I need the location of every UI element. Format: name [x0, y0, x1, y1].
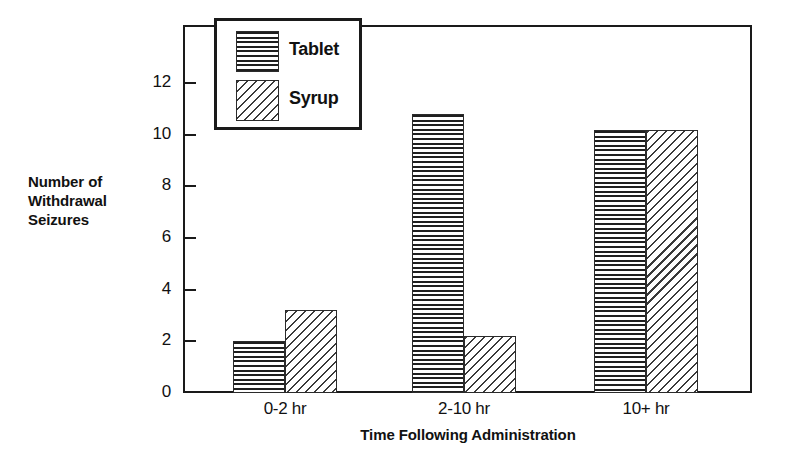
- x-axis-tick-label: 2-10 hr: [394, 399, 534, 419]
- legend-label-tablet: Tablet: [289, 39, 339, 60]
- legend-label-syrup: Syrup: [289, 88, 339, 109]
- y-axis-tick-label: 0: [131, 382, 171, 402]
- legend-item-tablet: Tablet: [217, 28, 359, 74]
- y-axis-tick: [183, 82, 196, 84]
- legend: Tablet Syrup: [214, 18, 362, 130]
- x-axis-tick-label: 0-2 hr: [215, 399, 355, 419]
- y-axis-tick: [183, 134, 196, 136]
- y-axis-tick: [183, 237, 196, 239]
- y-axis-tick-label: 2: [131, 330, 171, 350]
- y-axis-tick: [183, 289, 196, 291]
- y-axis-tick-label: 12: [131, 72, 171, 92]
- legend-swatch-tablet: [236, 31, 279, 72]
- y-axis-tick-label: 10: [131, 124, 171, 144]
- y-axis-tick-label: 8: [131, 175, 171, 195]
- y-axis-tick-label: 6: [131, 227, 171, 247]
- y-axis-tick: [183, 185, 196, 187]
- legend-item-syrup: Syrup: [217, 77, 359, 123]
- x-axis-title: Time Following Administration: [183, 426, 753, 443]
- bar-chart: Number of Withdrawal Seizures 024681012 …: [0, 0, 788, 460]
- y-axis-tick: [183, 340, 196, 342]
- legend-swatch-syrup: [236, 80, 279, 121]
- x-axis-tick-label: 10+ hr: [576, 399, 716, 419]
- y-axis-tick-label: 4: [131, 279, 171, 299]
